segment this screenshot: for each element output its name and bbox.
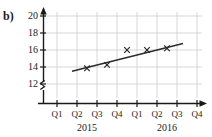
- grid-lines-horizontal: [44, 16, 202, 84]
- plot-area: [0, 0, 212, 137]
- x-axis: [38, 100, 207, 106]
- y-axis: [40, 7, 46, 104]
- grid-lines-vertical: [57, 12, 197, 98]
- chart-figure: b) 20 18 16 14 12 Q1 Q2 Q3 Q4 Q1 Q2 Q3 Q…: [0, 0, 212, 137]
